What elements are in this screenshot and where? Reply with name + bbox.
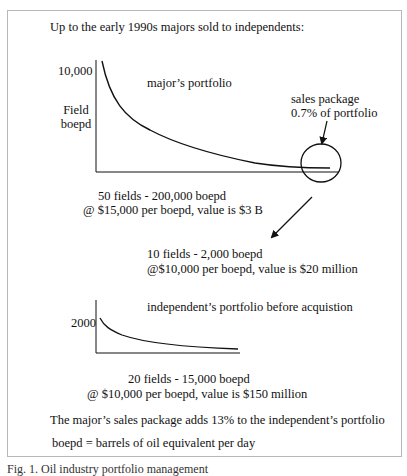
major-decline-curve: [102, 61, 330, 168]
sales-package-circle: [301, 144, 341, 182]
arrow-to-circle-icon: [322, 121, 327, 143]
major-chart-axes: [96, 60, 338, 172]
arrow-to-package-icon: [272, 197, 312, 237]
independent-decline-curve: [100, 318, 238, 349]
figure-caption: Fig. 1. Oil industry portfolio managemen…: [7, 462, 208, 476]
independent-chart-axes: [96, 300, 240, 353]
